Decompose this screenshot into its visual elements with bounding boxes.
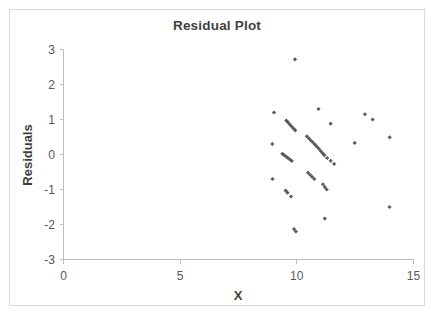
- y-axis-ticks: [60, 50, 64, 260]
- x-tick-label-0: 0: [60, 269, 67, 283]
- x-tick-label-10: 10: [290, 269, 304, 283]
- data-point: [289, 194, 293, 198]
- data-point: [293, 57, 297, 61]
- data-point: [353, 141, 357, 145]
- data-point: [325, 156, 329, 160]
- x-tick-label-15: 15: [407, 269, 421, 283]
- x-axis-title: X: [234, 288, 243, 303]
- scatter-plot: 3 2 1 0 -1 -2 -3 0 5 10 15 Residuals X: [10, 10, 424, 305]
- data-point: [388, 135, 392, 139]
- data-point: [270, 177, 274, 181]
- data-point: [272, 110, 276, 114]
- chart-frame: Residual Plot 3 2 1 0 -1 -2 -3: [9, 9, 425, 306]
- y-tick-label-1: 1: [48, 113, 55, 127]
- y-tick-label-2: 2: [48, 78, 55, 92]
- y-tick-label-0: 0: [48, 148, 55, 162]
- data-point: [387, 205, 391, 209]
- data-point: [363, 112, 367, 116]
- data-point: [332, 162, 336, 166]
- y-tick-label-n2: -2: [44, 218, 55, 232]
- data-point: [371, 117, 375, 121]
- data-point: [323, 216, 327, 220]
- data-point: [329, 159, 333, 163]
- data-point: [316, 107, 320, 111]
- y-tick-label-n3: -3: [44, 253, 55, 267]
- y-tick-label-n1: -1: [44, 183, 55, 197]
- x-tick-label-5: 5: [177, 269, 184, 283]
- data-point: [270, 142, 274, 146]
- data-point-group: [270, 57, 392, 233]
- y-tick-label-3: 3: [48, 43, 55, 57]
- data-point: [329, 122, 333, 126]
- x-axis-ticks: [64, 260, 414, 264]
- y-axis-title: Residuals: [20, 124, 35, 185]
